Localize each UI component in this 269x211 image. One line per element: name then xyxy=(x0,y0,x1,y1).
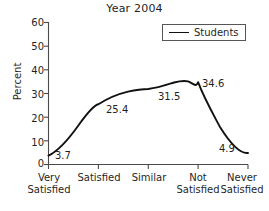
x-tick-label-never-satisfied: Never Satisfied xyxy=(215,172,269,195)
data-label-25-4: 25.4 xyxy=(106,104,128,115)
x-tick-label-line1: Satisfied xyxy=(77,172,120,183)
x-tick-label-line1: Never xyxy=(227,172,257,183)
legend-label-students: Students xyxy=(194,27,239,38)
legend-line-swatch xyxy=(169,32,189,33)
x-tick-label-line2: Satisfied xyxy=(20,184,78,196)
data-label-31-5: 31.5 xyxy=(158,91,180,102)
x-tick-label-line1: Similar xyxy=(132,172,167,183)
data-label-3-7: 3.7 xyxy=(55,150,71,161)
y-tick-marks xyxy=(44,23,49,165)
x-tick-label-line1: Not xyxy=(189,172,207,183)
legend: Students xyxy=(162,24,246,41)
x-tick-label-line2: Satisfied xyxy=(215,184,269,196)
x-tick-marks xyxy=(49,165,249,170)
data-label-4-9: 4.9 xyxy=(219,143,235,154)
data-label-34-6: 34.6 xyxy=(202,78,224,89)
chart-container: Year 2004 Percent 60 50 40 30 20 10 0 Ve… xyxy=(0,0,269,211)
x-tick-label-line1: Very xyxy=(38,172,60,183)
